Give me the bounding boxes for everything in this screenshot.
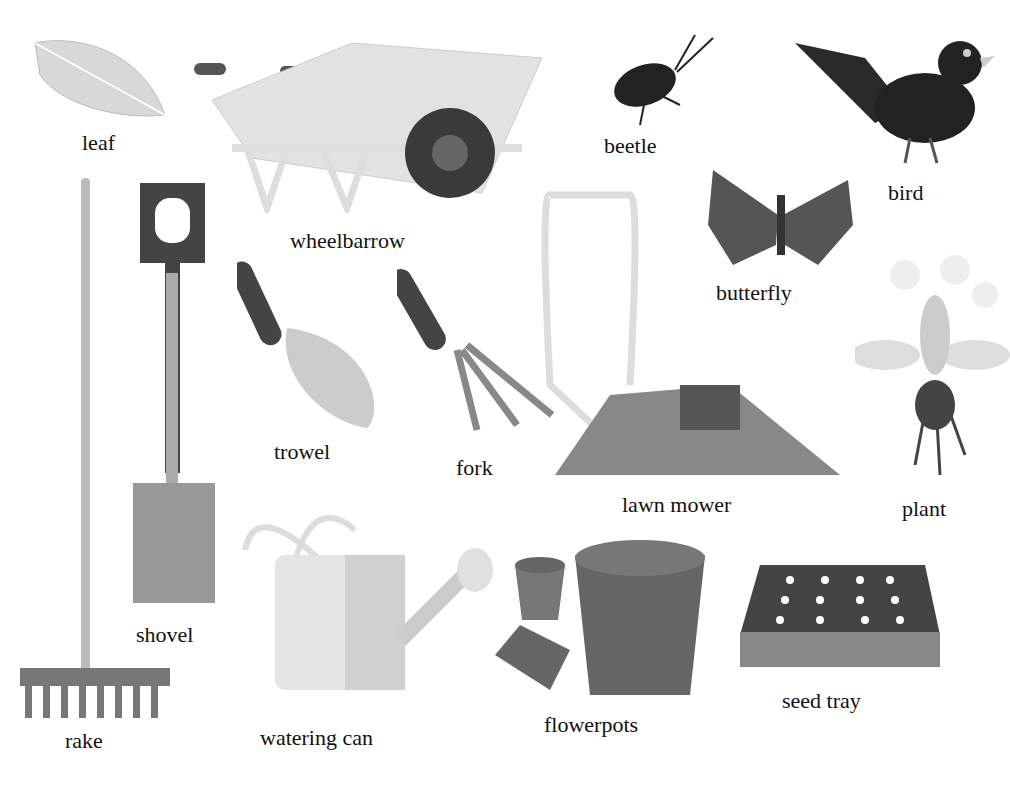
watering-can-illustration [235, 500, 495, 690]
label-trowel: trowel [274, 439, 330, 465]
lawn-mower-illustration [530, 185, 845, 485]
label-leaf: leaf [82, 130, 115, 156]
label-bird: bird [888, 180, 923, 206]
bird-illustration [795, 38, 995, 168]
trowel-illustration [237, 258, 382, 433]
shovel-illustration [130, 183, 220, 608]
label-shovel: shovel [136, 622, 193, 648]
label-fork: fork [456, 455, 493, 481]
label-flowerpots: flowerpots [544, 712, 638, 738]
label-beetle: beetle [604, 133, 657, 159]
leaf-illustration [30, 35, 170, 120]
label-wheelbarrow: wheelbarrow [290, 228, 405, 254]
wheelbarrow-illustration [192, 38, 542, 213]
label-lawn-mower: lawn mower [622, 492, 731, 518]
beetle-illustration [605, 30, 725, 130]
seed-tray-illustration [740, 560, 945, 670]
label-rake: rake [65, 728, 103, 754]
label-watering-can: watering can [260, 725, 373, 751]
label-seed-tray: seed tray [782, 688, 861, 714]
label-plant: plant [902, 496, 946, 522]
plant-illustration [855, 255, 1010, 480]
flowerpots-illustration [490, 540, 710, 705]
